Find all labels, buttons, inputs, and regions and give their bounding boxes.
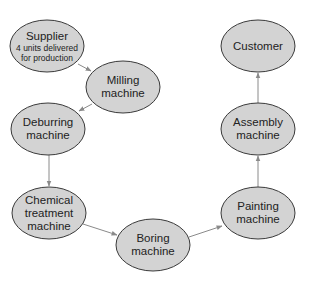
node-label: machine: [27, 220, 70, 232]
node-label: machine: [236, 213, 279, 225]
node-label: Deburring: [23, 116, 74, 128]
node-label: Assembly: [233, 116, 283, 128]
node-label: machine: [101, 87, 144, 99]
node-chemical: Chemicaltreatmentmachine: [12, 187, 86, 239]
node-supplier: Supplier4 units deliveredfor production: [10, 20, 84, 72]
arrow-boring-to-painting: [189, 226, 222, 237]
node-label: Chemical: [25, 194, 73, 206]
arrow-supplier-to-milling: [78, 64, 91, 71]
node-label: machine: [236, 129, 279, 141]
node-deburring: Deburringmachine: [11, 103, 85, 155]
arrow-milling-to-deburring: [79, 104, 92, 111]
production-flow-diagram: Supplier4 units deliveredfor productionM…: [0, 0, 311, 281]
node-label: Supplier: [26, 30, 68, 42]
node-milling: Millingmachine: [86, 61, 160, 113]
node-assembly: Assemblymachine: [221, 103, 295, 155]
node-painting: Paintingmachine: [221, 187, 295, 239]
node-label: machine: [131, 245, 174, 257]
node-label: treatment: [25, 207, 74, 219]
node-label: Boring: [136, 232, 169, 244]
node-label: Customer: [233, 40, 283, 52]
arrow-chemical-to-boring: [83, 224, 117, 235]
node-customer: Customer: [221, 20, 295, 72]
node-label: Milling: [107, 74, 140, 86]
nodes: Supplier4 units deliveredfor productionM…: [10, 20, 295, 271]
node-label: machine: [26, 129, 69, 141]
node-boring: Boringmachine: [116, 219, 190, 271]
node-sublabel: for production: [21, 53, 73, 63]
node-sublabel: 4 units delivered: [16, 43, 78, 53]
node-label: Painting: [237, 200, 279, 212]
